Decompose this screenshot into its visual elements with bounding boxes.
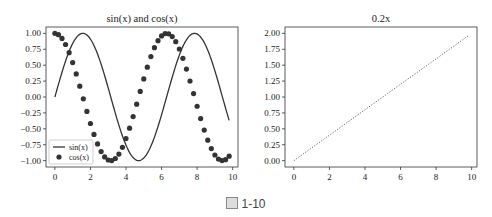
- x-tick-label: 4: [363, 172, 368, 182]
- y-tick-label: −0.75: [20, 140, 41, 150]
- legend-entry-sin: sin(x): [69, 143, 88, 152]
- y-tick-label: −1.00: [20, 156, 41, 166]
- x-tick-label: 8: [195, 172, 200, 182]
- subplot-2: 0.2x02468102.001.751.501.251.000.750.500…: [264, 13, 477, 182]
- y-tick-label: 0.75: [25, 44, 41, 54]
- y-tick-label: −0.50: [20, 124, 41, 134]
- figure: sin(x) and cos(x)02468101.000.750.500.25…: [0, 0, 492, 217]
- y-tick-label: 1.75: [264, 44, 280, 54]
- legend: sin(x)cos(x): [49, 140, 93, 164]
- y-tick-label: 1.00: [25, 28, 41, 38]
- y-tick-label: 2.00: [264, 28, 280, 38]
- y-tick-label: 0.25: [264, 140, 280, 150]
- y-tick-label: 1.50: [264, 60, 280, 70]
- x-tick-label: 2: [88, 172, 93, 182]
- figure-caption: 1-10: [0, 197, 492, 211]
- x-tick-label: 8: [434, 172, 439, 182]
- legend-entry-cos: cos(x): [69, 153, 89, 162]
- y-tick-label: −0.25: [20, 108, 41, 118]
- figure-label-icon: [226, 197, 238, 209]
- y-tick-label: 1.25: [264, 76, 280, 86]
- plot-frame: [285, 27, 477, 167]
- y-tick-label: 0.00: [25, 92, 41, 102]
- y-tick-label: 0.50: [264, 124, 280, 134]
- caption-number: 1-10: [241, 197, 265, 211]
- x-tick-label: 4: [124, 172, 129, 182]
- subplot-title: sin(x) and cos(x): [106, 13, 178, 25]
- x-tick-label: 10: [467, 172, 477, 182]
- series-linear-dotted: [294, 36, 468, 161]
- x-tick-label: 0: [292, 172, 297, 182]
- legend-marker-swatch: [56, 154, 61, 159]
- y-tick-label: 0.75: [264, 108, 280, 118]
- y-tick-label: 0.00: [264, 156, 280, 166]
- subplot-1: sin(x) and cos(x)02468101.000.750.500.25…: [20, 13, 238, 182]
- x-tick-label: 10: [228, 172, 238, 182]
- x-tick-label: 0: [53, 172, 58, 182]
- y-tick-label: 0.50: [25, 60, 41, 70]
- x-tick-label: 6: [159, 172, 164, 182]
- x-tick-label: 6: [398, 172, 403, 182]
- y-tick-label: 1.00: [264, 92, 280, 102]
- y-tick-label: 0.25: [25, 76, 41, 86]
- subplot-title: 0.2x: [372, 13, 391, 24]
- x-tick-label: 2: [327, 172, 332, 182]
